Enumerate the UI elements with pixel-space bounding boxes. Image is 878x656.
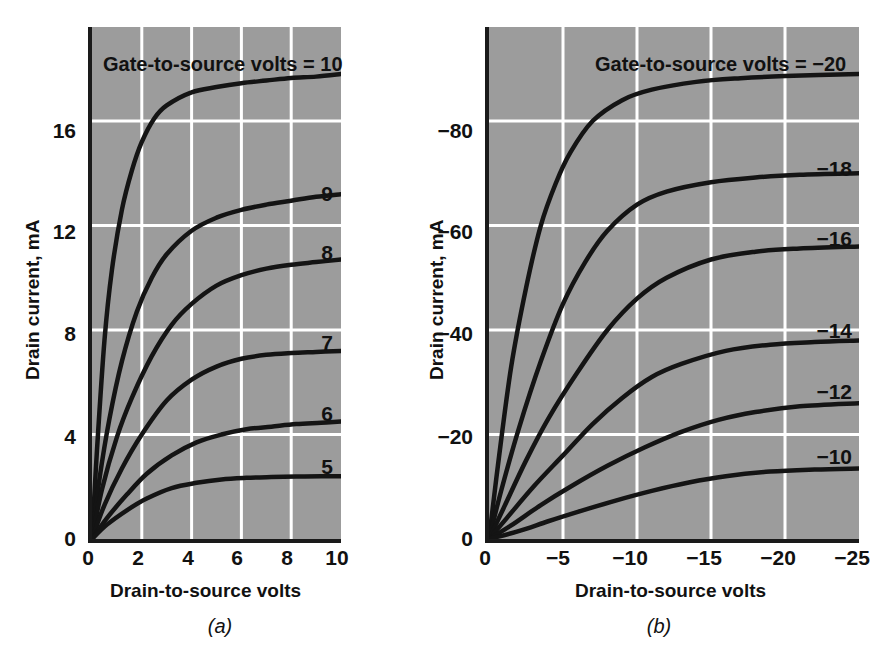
curve-label-b-10: −10 — [785, 445, 852, 469]
xtick-b-5: −5 — [533, 546, 583, 570]
curve-label-a-5: 5 — [289, 455, 333, 479]
y-axis-title-b: Drain current, mA — [426, 220, 448, 380]
curve-5 — [92, 476, 341, 539]
curve-label-a-7: 7 — [289, 331, 333, 355]
panel-a: 0 4 8 12 16 0 2 4 6 8 10 Drain current, … — [0, 0, 440, 656]
legend-title-a: Gate-to-source volts = 10 — [103, 53, 343, 76]
curve-label-b-14: −14 — [785, 319, 852, 343]
xtick-a-8: 8 — [267, 546, 307, 570]
y-axis-title-a: Drain current, mA — [22, 220, 44, 380]
xtick-b-20: −20 — [749, 546, 807, 570]
ytick-b-20: −20 — [418, 425, 473, 449]
figure-root: 0 4 8 12 16 0 2 4 6 8 10 Drain current, … — [0, 0, 878, 656]
ytick-a-4: 4 — [44, 425, 76, 449]
curve-label-a-6: 6 — [289, 402, 333, 426]
ytick-a-16: 16 — [32, 119, 76, 143]
curve-label-b-16: −16 — [785, 227, 852, 251]
xtick-b-0: 0 — [465, 546, 505, 570]
xtick-a-10: 10 — [315, 546, 359, 570]
xtick-a-4: 4 — [168, 546, 208, 570]
curve-label-b-12: −12 — [785, 380, 852, 404]
panel-b: 0 −20 −40 −60 −80 0 −5 −10 −15 −20 −25 D… — [440, 0, 878, 656]
ytick-a-8: 8 — [44, 322, 76, 346]
x-axis-title-b: Drain-to-source volts — [575, 580, 766, 602]
panel-caption-a: (a) — [0, 615, 440, 638]
panel-caption-b: (b) — [440, 615, 878, 638]
xtick-b-10: −10 — [601, 546, 659, 570]
curve-label-a-8: 8 — [289, 241, 333, 265]
xtick-a-2: 2 — [118, 546, 158, 570]
ytick-b-80: −80 — [418, 119, 473, 143]
curve-label-a-9: 9 — [289, 182, 333, 206]
curve-−14 — [489, 340, 859, 539]
curve-8 — [92, 259, 341, 539]
xtick-a-0: 0 — [68, 546, 108, 570]
legend-title-b: Gate-to-source volts = −20 — [595, 53, 846, 76]
curve-label-b-18: −18 — [785, 157, 852, 181]
x-axis-title-a: Drain-to-source volts — [110, 580, 301, 602]
xtick-a-6: 6 — [217, 546, 257, 570]
xtick-b-25: −25 — [823, 546, 878, 570]
xtick-b-15: −15 — [675, 546, 733, 570]
